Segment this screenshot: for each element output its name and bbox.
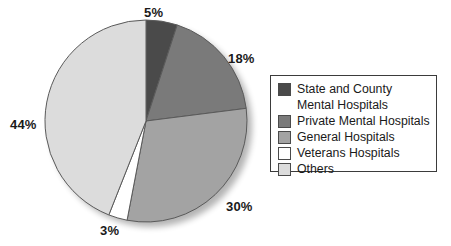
legend-item-state-county: State and County: [278, 82, 436, 98]
legend-swatch-private-mental: [278, 115, 291, 128]
legend-item-veterans: Veterans Hospitals: [278, 146, 436, 162]
legend-swatch-state-county: [278, 83, 291, 96]
slice-label-others: 44%: [10, 117, 37, 132]
pie-chart-figure: 5% 18% 30% 3% 44% State and County Menta…: [0, 0, 451, 246]
slice-label-general: 30%: [226, 199, 253, 214]
legend-swatch-general: [278, 131, 291, 144]
legend-item-general: General Hospitals: [278, 130, 436, 146]
legend-label-general: General Hospitals: [297, 130, 395, 145]
legend-label-others: Others: [297, 162, 334, 177]
legend-item-others: Others: [278, 162, 436, 178]
legend-label-state-county-line2: Mental Hospitals: [297, 98, 388, 113]
legend-item-private-mental: Private Mental Hospitals: [278, 114, 436, 130]
legend-swatch-others: [278, 163, 291, 176]
slice-label-veterans: 3%: [100, 223, 119, 238]
slice-label-private-mental: 18%: [228, 51, 255, 66]
legend-label-private-mental: Private Mental Hospitals: [297, 114, 430, 129]
chart-legend: State and County Mental Hospitals Privat…: [270, 75, 437, 172]
legend-item-state-county-line2: Mental Hospitals: [278, 98, 436, 114]
pie-slices: [45, 20, 247, 222]
slice-label-state-county: 5%: [144, 5, 163, 20]
legend-label-veterans: Veterans Hospitals: [297, 146, 400, 161]
legend-label-state-county: State and County: [297, 82, 392, 97]
legend-swatch-veterans: [278, 147, 291, 160]
